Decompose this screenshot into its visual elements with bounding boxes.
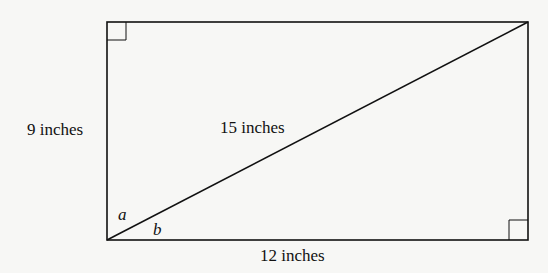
rectangle-diagram: 9 inches 15 inches 12 inches a b [0,0,548,273]
diagram-canvas: 9 inches 15 inches 12 inches a b [0,0,548,273]
right-angle-mark-bottom-right [509,220,528,240]
left-side-label: 9 inches [27,120,83,139]
diagonal-label: 15 inches [220,118,285,137]
bottom-side-label: 12 inches [260,246,325,265]
angle-b-label: b [153,220,162,239]
angle-a-label: a [118,205,127,224]
right-angle-mark-top-left [107,22,126,40]
diagonal-line [107,22,528,240]
